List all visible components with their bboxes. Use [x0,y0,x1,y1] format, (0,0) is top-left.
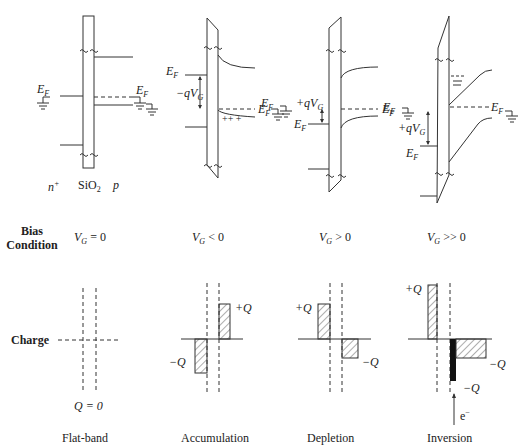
charge-flat-band [58,288,120,393]
valence-band [341,116,378,128]
charge-label-inversion-negative: −Q [463,382,480,394]
oxide-layer [83,16,94,168]
bias-condition-inversion: VG >> 0 [427,231,466,246]
charge-label-positive: +Q [235,302,252,314]
depletion-charge-bar [456,339,486,358]
positive-charge-bar [428,285,437,339]
ef-label-ground: EF [383,101,395,116]
ef-label-semiconductor: EF [136,84,148,99]
conduction-band [341,67,378,78]
layer-label-p: p [113,179,119,191]
mos-band-diagram [0,0,524,446]
panel-flat-band-bands [37,16,146,168]
ef-label-metal: EF [294,118,306,133]
electron-label: e− [460,409,470,422]
charge-label-positive: +Q [405,283,422,295]
charge-label-positive: +Q [295,302,312,314]
bias-condition-accumulation: VG < 0 [192,231,224,246]
oxide-layer [329,17,341,192]
charge-depletion [298,283,371,395]
panel-depletion-bands [280,17,378,192]
inversion-charge-bar [450,339,456,381]
ground-icon [505,111,518,122]
conduction-band [218,55,255,68]
layer-label-n-plus: n+ [48,180,59,193]
row-label-charge: Charge [11,334,49,346]
ef-label-metal: EF [406,147,418,162]
voltage-drop-label: −qVG [176,87,203,102]
charge-label-negative: −Q [362,356,379,368]
charge-label-zero: Q = 0 [74,400,103,412]
charge-accumulation [181,283,243,395]
ground-icon [37,97,50,109]
oxide-layer [207,18,218,178]
electron-arrow-icon [452,393,456,398]
positive-charge-bar [219,304,230,339]
ground-icon [280,106,292,117]
charge-inversion [408,283,492,425]
ef-label-ground: EF [261,97,273,112]
regime-label-inversion: Inversion [427,432,472,444]
surface-charge-label: ++ + [222,115,236,123]
ef-label-semiconductor: EF [491,101,503,116]
layer-label-oxide: SiO2 [78,179,101,194]
ef-label-metal: EF [37,83,49,98]
regime-label-accumulation: Accumulation [181,432,249,444]
regime-label-depletion: Depletion [307,432,354,444]
charge-label-negative: −Q [169,356,186,368]
positive-charge-bar [318,304,330,339]
bias-condition-depletion: VG > 0 [319,231,351,246]
oxide-layer [437,16,449,203]
ground-icon [402,108,414,119]
regime-label-flat-band: Flat-band [62,432,108,444]
ef-label-metal: EF [166,65,178,80]
row-label-bias: Bias Condition [6,224,58,252]
negative-charge-bar [195,339,207,373]
conduction-band [449,70,492,105]
voltage-drop-label: +qVG [296,97,323,112]
valence-band [449,118,492,162]
negative-depletion-charge-bar [342,339,358,358]
voltage-drop-label: +qVG [398,122,425,137]
charge-label-depletion-negative: −Q [489,358,506,370]
ground-icon [146,104,158,115]
bias-condition-flat-band: VG = 0 [74,231,106,246]
